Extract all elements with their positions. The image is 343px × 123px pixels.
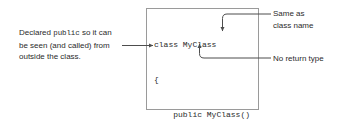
annotation-no-return-type: No return type: [273, 53, 324, 65]
code-listing: class MyClass { public MyClass() { ... }…: [154, 16, 250, 123]
no-return-line-1: No return type: [273, 53, 324, 65]
annotation-public-modifier: Declared public so it can be seen (and c…: [19, 27, 112, 63]
left-note-line-1: Declared public so it can: [19, 27, 112, 40]
annotation-same-as-class-name: Same as class name: [273, 8, 313, 31]
same-as-line-2: class name: [273, 20, 313, 32]
code-line: public MyClass(): [154, 109, 250, 121]
left-note-line-1-pre: Declared: [19, 28, 53, 37]
left-note-line-3: outside the class.: [19, 51, 112, 63]
left-note-keyword-public: public: [53, 29, 79, 37]
left-note-line-2: be seen (and called) from: [19, 40, 112, 52]
same-as-line-1: Same as: [273, 8, 313, 20]
diagram-root: Declared public so it can be seen (and c…: [0, 0, 343, 123]
left-note-line-1-post: so it can: [80, 28, 112, 37]
code-line: class MyClass: [154, 39, 250, 51]
code-line: {: [154, 74, 250, 86]
